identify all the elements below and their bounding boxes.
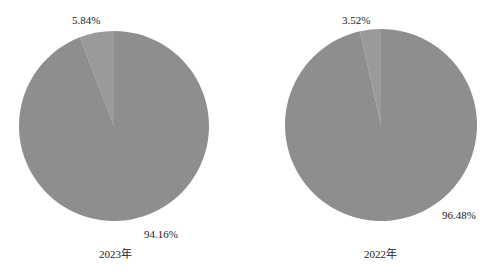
pie-2023 — [19, 31, 209, 221]
pie-2022-small-label: 3.52% — [342, 14, 370, 26]
pie-2022 — [285, 29, 477, 221]
pie-2023-small-label: 5.84% — [72, 14, 100, 26]
pie-2023-large-label: 94.16% — [144, 228, 178, 240]
pie-2023-title: 2023年 — [99, 245, 132, 261]
pie-slice — [285, 29, 477, 221]
pie-chart-2023 — [0, 0, 493, 271]
pie-2022-title: 2022年 — [364, 245, 397, 261]
pie-2022-large-label: 96.48% — [442, 209, 476, 221]
